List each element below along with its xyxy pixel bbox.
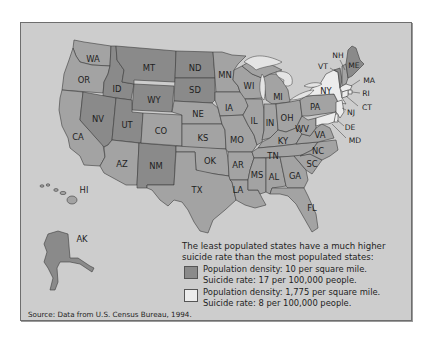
label-ak: AK <box>76 234 88 244</box>
label-ok: OK <box>204 156 217 166</box>
label-ct: CT <box>362 103 372 112</box>
legend-swatch-dark <box>184 266 198 279</box>
label-wi: WI <box>244 81 255 91</box>
label-nm: NM <box>149 161 163 171</box>
label-ar: AR <box>232 160 244 170</box>
state-ri <box>348 90 352 94</box>
label-nj: NJ <box>347 108 355 117</box>
label-tx: TX <box>191 185 203 195</box>
label-nv: NV <box>92 114 104 124</box>
label-nh: NH <box>332 51 343 60</box>
label-sd: SD <box>189 85 201 95</box>
label-ks: KS <box>198 133 209 143</box>
label-fl: FL <box>307 203 317 213</box>
leader-ma <box>351 80 360 86</box>
label-al: AL <box>269 172 280 182</box>
label-wy: WY <box>147 95 161 105</box>
label-wa: WA <box>86 54 100 64</box>
label-la: LA <box>233 185 244 195</box>
label-ma: MA <box>363 76 376 85</box>
legend-swatch-light <box>184 289 198 302</box>
label-ne: NE <box>192 109 204 119</box>
label-hi: HI <box>80 185 89 195</box>
label-pa: PA <box>310 102 321 112</box>
label-ny: NY <box>320 86 332 96</box>
label-ri: RI <box>362 89 370 98</box>
legend-item-most-populated: Population density: 1,775 per square mil… <box>182 287 410 308</box>
state-hi <box>40 184 77 204</box>
label-ky: KY <box>278 136 289 146</box>
legend-density-least: Population density: 10 per square mile. <box>203 264 367 275</box>
label-il: IL <box>250 116 257 126</box>
label-tn: TN <box>266 151 278 161</box>
label-or: OR <box>78 75 91 85</box>
legend-rate-least: Suicide rate: 17 per 100,000 people. <box>203 275 367 286</box>
label-ut: UT <box>121 120 133 130</box>
label-vt: VT <box>318 62 328 71</box>
legend-title: The least populated states have a much h… <box>182 241 410 262</box>
label-oh: OH <box>281 113 294 123</box>
label-ca: CA <box>72 132 84 142</box>
label-nd: ND <box>189 63 202 73</box>
label-id: ID <box>113 84 122 94</box>
label-ia: IA <box>225 103 233 113</box>
label-mo: MO <box>230 135 244 145</box>
label-az: AZ <box>116 159 128 169</box>
label-me: ME <box>348 61 360 70</box>
label-mt: MT <box>143 63 156 73</box>
label-md: MD <box>349 136 362 145</box>
label-co: CO <box>155 126 168 136</box>
legend-density-most: Population density: 1,775 per square mil… <box>203 287 380 298</box>
label-ms: MS <box>251 170 264 180</box>
label-nc: NC <box>312 146 324 156</box>
label-sc: SC <box>306 159 317 169</box>
leader-ct <box>346 96 358 106</box>
leader-de <box>337 120 344 126</box>
legend-rate-most: Suicide rate: 8 per 100,000 people. <box>203 298 380 309</box>
label-mn: MN <box>218 70 232 80</box>
label-wv: WV <box>295 124 309 134</box>
legend-item-least-populated: Population density: 10 per square mile. … <box>182 264 410 285</box>
label-va: VA <box>315 130 326 140</box>
label-de: DE <box>345 123 356 132</box>
legend: The least populated states have a much h… <box>182 241 410 308</box>
source-citation: Source: Data from U.S. Census Bureau, 19… <box>28 310 192 319</box>
label-ga: GA <box>289 171 301 181</box>
leader-ri <box>352 92 360 93</box>
label-mi: MI <box>273 92 283 102</box>
label-in: IN <box>266 118 275 128</box>
